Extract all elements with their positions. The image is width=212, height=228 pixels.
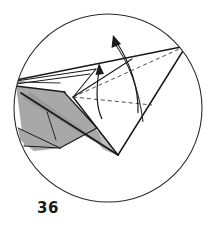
figure-number-caption: 36 [0,199,96,217]
origami-diagram [0,0,212,228]
figure-container: 36 [0,0,212,228]
